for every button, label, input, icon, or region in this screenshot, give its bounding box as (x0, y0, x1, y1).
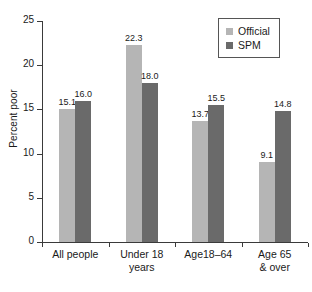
x-axis-tick (109, 243, 110, 247)
bar-group: 22.318.0 (126, 21, 158, 242)
x-axis-category-label: Age18–64 (175, 248, 242, 261)
y-axis-tick: 20 (37, 65, 42, 66)
y-axis-tick-label: 5 (28, 191, 34, 203)
bar-value-label: 15.1 (58, 97, 76, 107)
bar-official: 22.3 (126, 45, 142, 242)
x-axis-tick (42, 243, 43, 247)
legend-label: SPM (238, 39, 261, 51)
bar-value-label: 15.5 (207, 93, 225, 103)
y-axis-tick: 10 (37, 154, 42, 155)
bar-spm: 18.0 (142, 83, 158, 242)
y-axis-tick: 5 (37, 198, 42, 199)
y-axis-tick-label: 20 (23, 58, 34, 70)
x-axis-tick (175, 243, 176, 247)
x-axis-category-label: Under 18 years (109, 248, 176, 274)
chart-legend: OfficialSPM (218, 18, 280, 58)
y-axis-tick: 25 (37, 21, 42, 22)
y-axis-tick-label: 15 (23, 102, 34, 114)
bar-official: 9.1 (259, 162, 275, 242)
y-axis-tick-label: 25 (23, 14, 34, 26)
bar-value-label: 9.1 (260, 150, 273, 160)
y-axis-tick-label: 0 (28, 235, 34, 247)
y-axis-title: Percent poor (8, 74, 19, 164)
bar-official: 13.7 (192, 121, 208, 242)
y-axis-tick: 15 (37, 109, 42, 110)
bar-official: 15.1 (59, 109, 75, 242)
bar-value-label: 14.8 (274, 99, 292, 109)
bar-value-label: 18.0 (141, 71, 159, 81)
bar-spm: 14.8 (275, 111, 291, 242)
y-axis-tick-label: 10 (23, 147, 34, 159)
bar-spm: 15.5 (208, 105, 224, 242)
legend-item-spm: SPM (226, 38, 270, 52)
x-axis-category-label: Age 65 & over (242, 248, 309, 274)
x-axis-category-label: All people (42, 248, 109, 261)
x-axis-tick (242, 243, 243, 247)
legend-swatch-icon (226, 42, 233, 49)
x-axis-tick (308, 243, 309, 247)
bar-spm: 16.0 (75, 101, 91, 242)
bar-group: 15.116.0 (59, 21, 91, 242)
legend-item-official: Official (226, 24, 270, 38)
y-axis-line (42, 21, 43, 243)
bar-value-label: 16.0 (74, 89, 92, 99)
legend-swatch-icon (226, 28, 233, 35)
bar-value-label: 22.3 (125, 33, 143, 43)
legend-label: Official (238, 25, 270, 37)
bar-chart: Percent poor 0510152025 15.116.022.318.0… (0, 0, 312, 292)
bar-value-label: 13.7 (191, 109, 209, 119)
